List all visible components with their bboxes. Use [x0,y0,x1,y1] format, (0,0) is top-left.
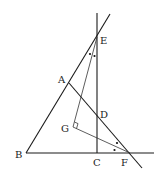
angle-mark-dot-f1 [116,142,118,144]
label-d: D [100,109,108,120]
angle-mark-dot-e1 [89,53,91,55]
label-e: E [100,35,107,46]
label-a: A [57,74,66,85]
label-b: B [15,149,22,160]
angle-mark-dot-e2 [93,55,95,57]
label-g: G [61,123,69,134]
angle-mark-dot-f2 [113,149,115,151]
line-af-extended [69,83,142,168]
label-f: F [121,157,128,168]
segment-gf [73,127,130,153]
geometry-diagram: E A D G B C F [0,0,165,175]
segment-eg [73,37,97,127]
label-c: C [93,157,101,168]
